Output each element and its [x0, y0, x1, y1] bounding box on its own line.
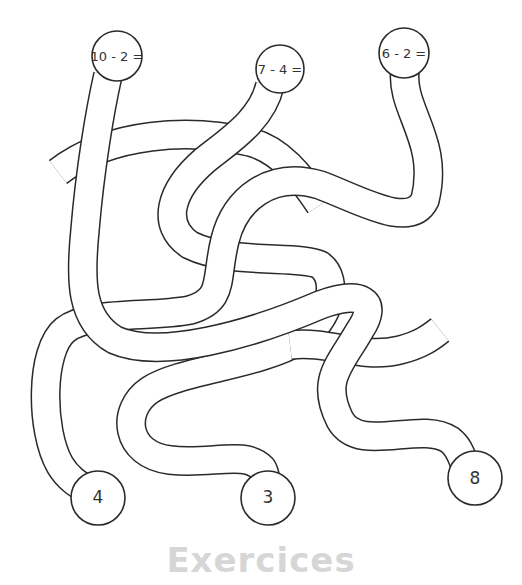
answer-label: 8 — [470, 468, 481, 488]
footer-title: Exercices — [0, 540, 522, 580]
maze-diagram: 10 - 2 = 7 - 4 = 6 - 2 = 4 3 8 — [0, 0, 522, 540]
problem-bubble-6-2: 6 - 2 = — [379, 28, 429, 78]
problem-label: 10 - 2 = — [91, 49, 144, 64]
problem-label: 6 - 2 = — [382, 46, 427, 61]
answer-label: 3 — [263, 487, 274, 507]
answer-bubble-4: 4 — [71, 471, 125, 525]
problem-bubble-7-4: 7 - 4 = — [256, 45, 304, 93]
answer-label: 4 — [93, 487, 104, 507]
answer-bubble-3: 3 — [241, 471, 295, 525]
answer-bubble-8: 8 — [448, 451, 502, 505]
problem-label: 7 - 4 = — [258, 62, 303, 77]
problem-bubble-10-2: 10 - 2 = — [91, 31, 144, 81]
